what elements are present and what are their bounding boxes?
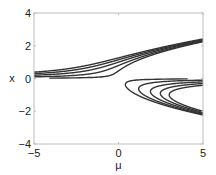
x-tick-label: 5 [200, 147, 206, 159]
y-tick-labels: −4−2024 [18, 7, 31, 150]
bifurcation-chart: −4−2024 −505 μ x [0, 0, 216, 175]
y-tick-label: 4 [25, 7, 31, 19]
y-tick-label: 2 [25, 40, 31, 52]
y-tick-label: −2 [18, 105, 31, 117]
x-tick-label: 0 [115, 147, 121, 159]
upper-branch-h=2 [27, 37, 211, 72]
y-axis-label: x [9, 72, 15, 84]
x-tick-label: −5 [28, 147, 41, 159]
curves-group [26, 37, 211, 116]
y-tick-label: 0 [25, 73, 31, 85]
x-axis-label: μ [115, 159, 121, 171]
x-tick-labels: −505 [28, 147, 206, 159]
